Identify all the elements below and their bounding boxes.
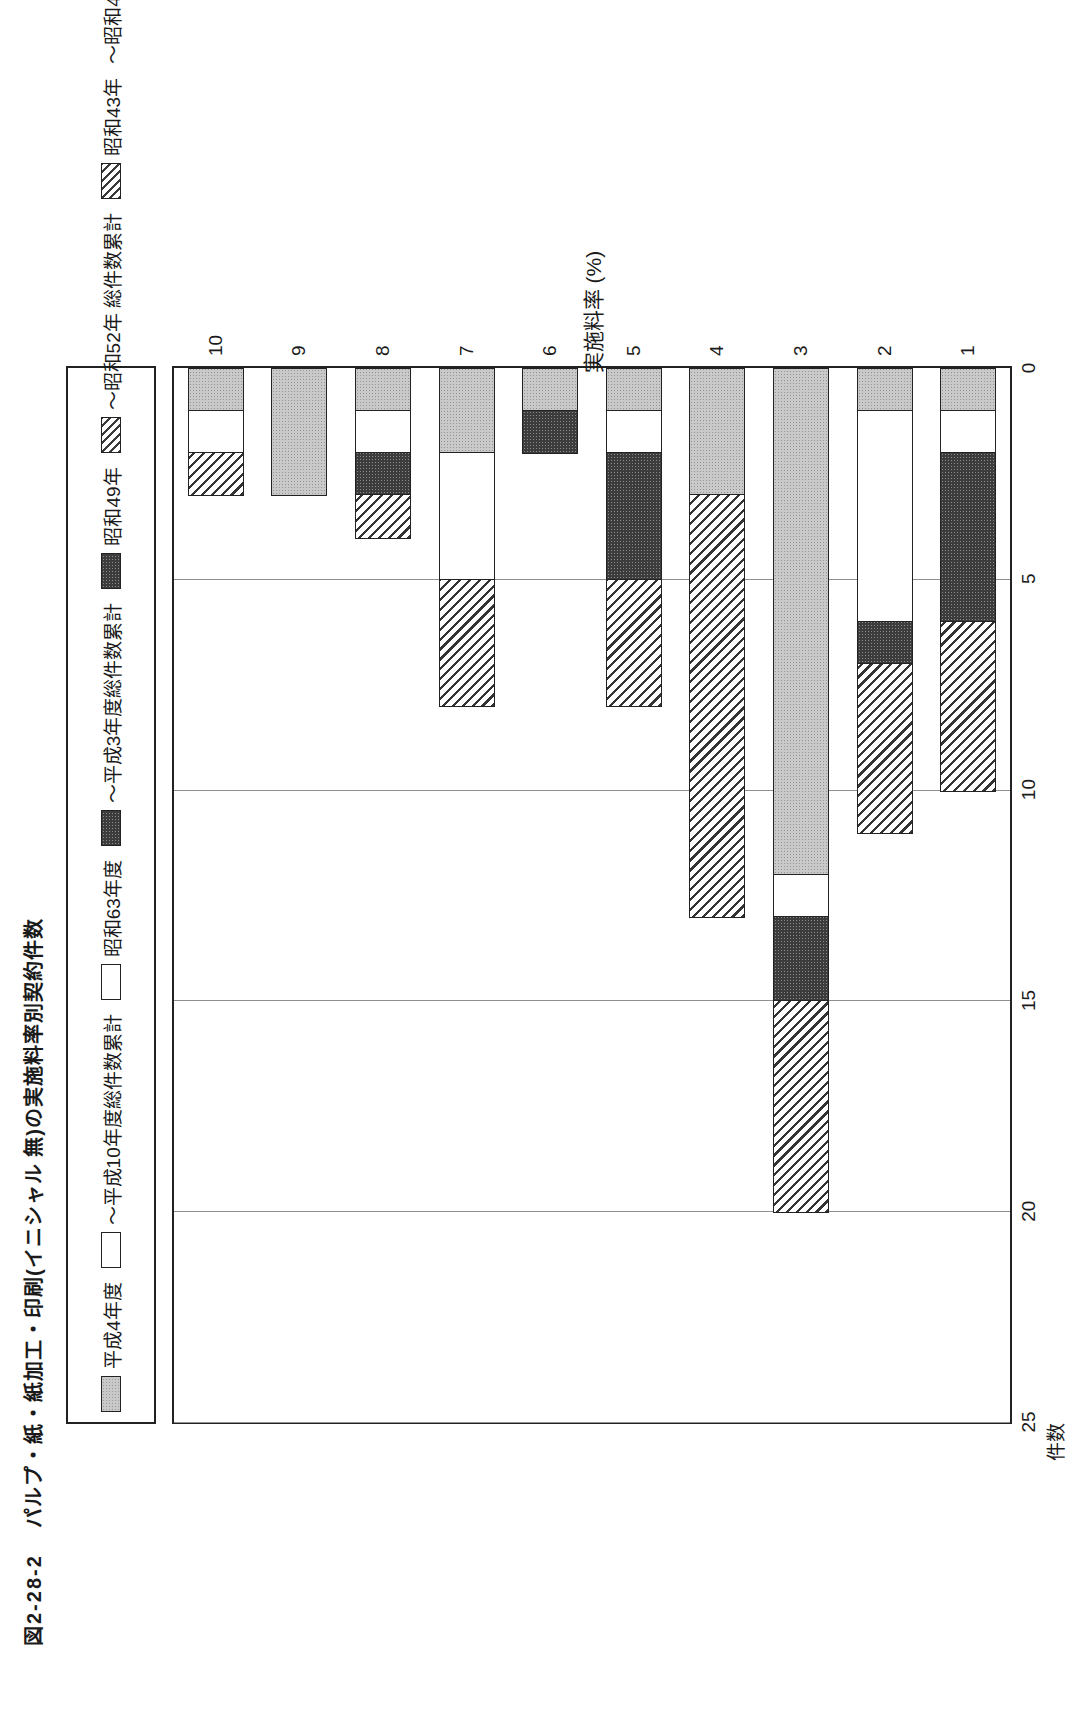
legend-swatch-dark: [101, 553, 121, 589]
legend-label: 平成4年度: [98, 1282, 125, 1369]
bar-band: [341, 368, 425, 539]
bar-segment-white: [858, 411, 912, 622]
category-tick-label: 8: [372, 345, 394, 356]
bar-segment-gray: [523, 369, 577, 411]
figure-title-text: パルプ・紙・紙加工・印刷(イニシャル 無)の実施料率別契約件数: [23, 918, 45, 1528]
category-axis-title: 実施料率 (%): [172, 292, 1012, 332]
bar-segment-dark: [356, 453, 410, 495]
bar-segment-gray: [440, 369, 494, 453]
bar-segment-white: [774, 875, 828, 917]
bar-segment-gray: [356, 369, 410, 411]
bar-band: [258, 368, 342, 496]
bar-segment-dark: [523, 411, 577, 453]
bar-segment-white: [440, 453, 494, 579]
legend-item: ～平成10年度総件数累計: [98, 1014, 125, 1268]
table-row: [439, 368, 495, 707]
legend: 平成4年度～平成10年度総件数累計昭和63年度～平成3年度総件数累計昭和49年～…: [66, 366, 156, 1424]
gridline: [174, 1422, 1010, 1423]
figure-number: 図2-28-2: [23, 1554, 45, 1646]
legend-swatch-hatch: [101, 163, 121, 199]
table-row: [773, 368, 829, 1213]
legend-swatch-dark: [101, 810, 121, 846]
table-row: [271, 368, 327, 496]
bar-segment-dark: [858, 622, 912, 664]
value-axis-title: 件数: [1046, 1422, 1067, 1462]
table-row: [606, 368, 662, 707]
bar-segment-white: [607, 411, 661, 453]
legend-row: 平成4年度～平成10年度総件数累計昭和63年度～平成3年度総件数累計昭和49年～…: [98, 378, 125, 1412]
value-axis-ticks: 0510152025: [1014, 366, 1048, 1424]
legend-swatch-hatch: [101, 417, 121, 453]
bar-segment-dark: [941, 453, 995, 622]
bar-segment-gray: [774, 369, 828, 875]
category-tick-label: 1: [957, 345, 979, 356]
bar-segment-hatch: [607, 580, 661, 706]
bar-segment-hatch: [774, 1001, 828, 1212]
bar-band: [174, 368, 258, 496]
legend-label: ～平成3年度総件数累計: [98, 603, 125, 804]
value-tick-label: 20: [1018, 1201, 1040, 1222]
category-tick-label: 6: [539, 345, 561, 356]
value-tick-label: 10: [1018, 779, 1040, 800]
bar-segment-gray: [690, 369, 744, 495]
bar-segment-gray: [607, 369, 661, 411]
bar-band: [759, 368, 843, 1213]
bar-segment-hatch: [189, 453, 243, 495]
bar-band: [843, 368, 927, 834]
legend-label: ～昭和52年 総件数累計: [98, 213, 125, 410]
table-row: [857, 368, 913, 834]
category-tick-label: 9: [288, 345, 310, 356]
legend-item: 昭和63年度: [98, 860, 125, 1000]
gridline: [174, 1000, 1010, 1001]
legend-item: ～昭和52年 総件数累計: [98, 213, 125, 453]
bar-band: [425, 368, 509, 707]
value-tick-label: 25: [1018, 1411, 1040, 1432]
legend-swatch-white: [101, 964, 121, 1000]
bar-band: [592, 368, 676, 707]
legend-swatch-white: [101, 1232, 121, 1268]
table-row: [355, 368, 411, 539]
category-tick-label: 4: [706, 345, 728, 356]
bar-segment-dark: [774, 917, 828, 1001]
bar-band: [676, 368, 760, 918]
legend-item: 昭和43年: [98, 78, 125, 199]
category-axis-title-text: 実施料率 (%): [577, 251, 607, 374]
bar-segment-gray: [858, 369, 912, 411]
bar-segment-white: [189, 411, 243, 453]
gridline: [174, 1211, 1010, 1212]
figure-title: 図2-28-2 パルプ・紙・紙加工・印刷(イニシャル 無)の実施料率別契約件数: [18, 918, 47, 1646]
bar-segment-white: [356, 411, 410, 453]
legend-swatch-gray: [101, 1376, 121, 1412]
bar-segment-hatch: [941, 622, 995, 791]
category-tick-label: 5: [623, 345, 645, 356]
table-row: [522, 368, 578, 454]
bar-segment-gray: [272, 369, 326, 495]
table-row: [940, 368, 996, 792]
bar-segment-hatch: [440, 580, 494, 706]
bar-segment-hatch: [858, 664, 912, 833]
bar-segment-gray: [941, 369, 995, 411]
bar-segment-dark: [607, 453, 661, 579]
legend-item: 平成4年度: [98, 1282, 125, 1412]
legend-item: 昭和49年: [98, 467, 125, 588]
value-tick-label: 0: [1018, 363, 1040, 374]
category-tick-label: 2: [874, 345, 896, 356]
bar-segment-white: [941, 411, 995, 453]
legend-label: 昭和49年: [98, 467, 125, 545]
legend-label: ～昭和48年 総件数累計: [98, 0, 125, 64]
bar-band: [508, 368, 592, 454]
plot-area: [172, 366, 1012, 1424]
legend-label: ～平成10年度総件数累計: [98, 1014, 125, 1225]
table-row: [689, 368, 745, 918]
legend-label: 昭和63年度: [98, 860, 125, 957]
category-tick-label: 7: [456, 345, 478, 356]
legend-item: ～平成3年度総件数累計: [98, 603, 125, 847]
table-row: [188, 368, 244, 496]
plot-inner: [174, 368, 1010, 1422]
bar-band: [926, 368, 1010, 792]
bar-segment-gray: [189, 369, 243, 411]
value-tick-label: 5: [1018, 574, 1040, 585]
bar-segment-hatch: [690, 495, 744, 917]
legend-item: ～昭和48年 総件数累計: [98, 0, 125, 64]
category-tick-label: 3: [790, 345, 812, 356]
